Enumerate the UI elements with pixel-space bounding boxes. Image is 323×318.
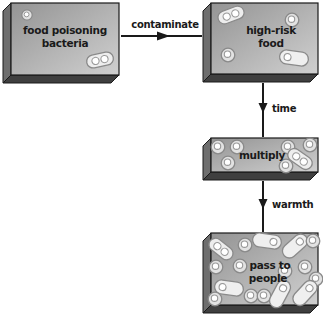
arrow-head-icon <box>157 32 170 41</box>
box-side <box>3 3 11 83</box>
bacterium-coccus-icon <box>22 10 32 20</box>
node-label-line1: multiply <box>239 149 286 161</box>
bacterium-coccus-icon <box>238 238 252 252</box>
edge-label: contaminate <box>131 19 199 30</box>
node-multiply: multiply <box>203 138 318 180</box>
node-label-line1: food poisoning <box>23 24 107 36</box>
box-bottom <box>203 305 318 313</box>
bacterium-coccus-icon <box>306 234 320 248</box>
node-food-poisoning-bacteria: food poisoning bacteria <box>3 3 119 83</box>
edge-warmth: warmth <box>259 181 314 232</box>
bacterium-coccus-icon <box>279 159 293 173</box>
arrow-head-icon <box>259 103 268 113</box>
bacterium-coccus-icon <box>244 289 258 303</box>
bacterium-coccus-icon <box>303 138 317 152</box>
flow-diagram: food poisoning bacteria contaminate high… <box>0 0 323 318</box>
flow-diagram-canvas: food poisoning bacteria contaminate high… <box>0 0 323 318</box>
arrow-head-icon <box>259 199 268 209</box>
bacterium-coccus-icon <box>208 292 222 306</box>
edge-contaminate: contaminate <box>121 19 202 41</box>
bacterium-coccus-icon <box>221 48 235 62</box>
box-bottom <box>3 75 119 83</box>
node-label-line2: bacteria <box>42 37 89 49</box>
node-label-line2: food <box>258 37 283 49</box>
box-bottom <box>203 172 318 180</box>
node-label-line2: people <box>249 272 287 284</box>
node-pass-to-people: pass to people <box>203 231 323 313</box>
edge-label: time <box>272 103 297 114</box>
bacterium-coccus-icon <box>221 156 235 170</box>
box-side <box>203 3 211 82</box>
bacterium-coccus-icon <box>211 140 225 154</box>
box-bottom <box>203 74 318 82</box>
node-high-risk-food: high-risk food <box>203 3 318 82</box>
bacterium-coccus-icon <box>233 259 247 273</box>
bacterium-coccus-icon <box>209 260 223 274</box>
edge-label: warmth <box>272 199 314 210</box>
node-label-line1: pass to <box>250 259 291 271</box>
node-label-line1: high-risk <box>246 24 297 36</box>
edge-time: time <box>259 83 297 137</box>
bacterium-coccus-icon <box>257 289 271 303</box>
bacterium-coccus-icon <box>298 260 312 274</box>
